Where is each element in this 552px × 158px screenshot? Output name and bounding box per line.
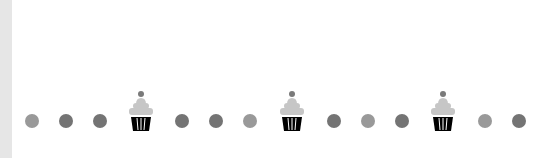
dot-icon — [361, 114, 375, 128]
dot-icon — [59, 114, 73, 128]
cupcake-icon — [278, 90, 306, 132]
dot-icon — [243, 114, 257, 128]
dot-icon — [395, 114, 409, 128]
dot-icon — [93, 114, 107, 128]
dot-icon — [25, 114, 39, 128]
dot-icon — [512, 114, 526, 128]
cupcake-icon — [127, 90, 155, 132]
dot-icon — [478, 114, 492, 128]
cupcake-icon — [429, 90, 457, 132]
decorative-row — [0, 0, 552, 158]
dot-icon — [175, 114, 189, 128]
dot-icon — [209, 114, 223, 128]
dot-icon — [327, 114, 341, 128]
